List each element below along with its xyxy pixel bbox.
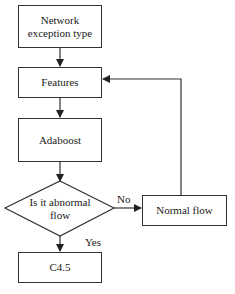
node-label: exception type xyxy=(28,27,92,39)
node-label: Adaboost xyxy=(39,134,81,147)
node-features: Features xyxy=(18,67,102,98)
node-adaboost: Adaboost xyxy=(18,118,102,162)
node-label: flow xyxy=(50,209,70,221)
node-normal-flow: Normal flow xyxy=(142,195,227,226)
feedback-arrow xyxy=(103,79,181,195)
node-label: C4.5 xyxy=(49,261,70,274)
node-label: Is it abnormal xyxy=(29,196,90,208)
node-label: Normal flow xyxy=(156,204,213,217)
edge-label-yes: Yes xyxy=(85,236,101,248)
node-label: Features xyxy=(41,76,78,89)
node-network-exception-type: Networkexception type xyxy=(18,5,102,48)
edge-label-no: No xyxy=(117,193,130,205)
node-label: Network xyxy=(41,14,80,26)
node-c45: C4.5 xyxy=(18,252,102,283)
node-decision-label: Is it abnormalflow xyxy=(20,196,100,222)
